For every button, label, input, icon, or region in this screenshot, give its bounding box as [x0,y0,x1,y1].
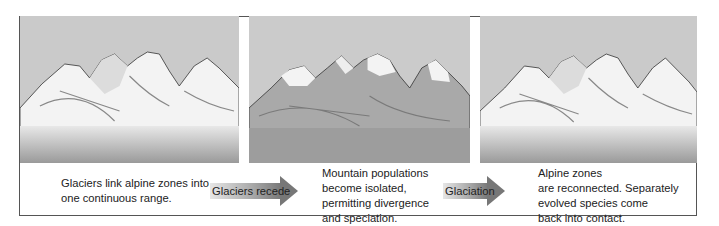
bare-mountains-illustration [249,16,470,163]
panel-isolated-mountains [249,16,470,163]
caption-line: evolved species come [538,196,708,211]
caption-line: are reconnected. Separately [538,181,708,196]
caption-reconnected: Alpine zones are reconnected. Separately… [538,166,708,226]
arrow-glaciers-recede: Glaciers recede [210,176,300,206]
arrow-glaciation: Glaciation [443,176,505,206]
panel-reconnected-mountains [480,16,697,163]
caption-line: back into contact. [538,211,708,226]
arrow-label: Glaciation [445,183,495,199]
caption-line: Alpine zones [538,166,708,181]
snowy-mountains-illustration [20,16,239,163]
panel-glaciated-mountains [20,16,239,163]
caption-line: and speciation. [322,211,482,226]
snowy-mountains-illustration [480,16,697,163]
arrow-label: Glaciers recede [212,183,290,199]
